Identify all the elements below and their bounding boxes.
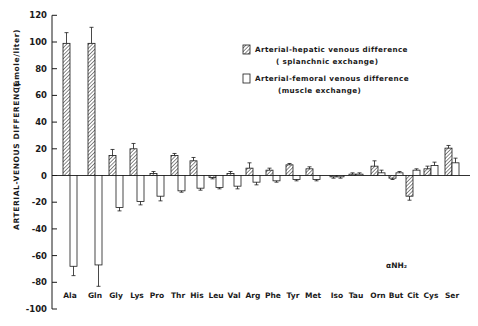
category-label: Arg bbox=[246, 291, 261, 300]
y-tick-label: 80 bbox=[35, 64, 47, 74]
y-axis-title: ARTERIAL-VENOUS DIFFERENCE (µmole/liter) bbox=[12, 29, 21, 230]
muscle-bar bbox=[137, 176, 144, 202]
category-label: Phe bbox=[265, 291, 281, 300]
muscle-bar bbox=[197, 176, 204, 189]
y-tick-label: -100 bbox=[26, 304, 47, 314]
hepatic-bar bbox=[371, 166, 378, 175]
hepatic-bar bbox=[389, 176, 396, 179]
category-label: But bbox=[389, 291, 404, 300]
muscle-bar bbox=[396, 173, 403, 176]
category-label: Thr bbox=[171, 291, 185, 300]
y-axis-label: ARTERIAL-VENOUS DIFFERENCE bbox=[12, 81, 21, 230]
category-label: Orn bbox=[370, 291, 385, 300]
category-label: Ala bbox=[63, 291, 76, 300]
category-label: Leu bbox=[208, 291, 223, 300]
category-label: Tyr bbox=[287, 291, 300, 300]
hepatic-bar bbox=[150, 173, 157, 175]
hepatic-bar bbox=[424, 169, 431, 176]
hepatic-bar bbox=[349, 174, 356, 175]
legend-item-femoral-sub: (muscle exchange) bbox=[278, 86, 361, 95]
alpha-nh2-annotation: αNH₂ bbox=[386, 261, 407, 270]
category-label: His bbox=[190, 291, 204, 300]
muscle-bar bbox=[216, 176, 223, 188]
hepatic-bar bbox=[246, 168, 253, 175]
legend-open-swatch bbox=[243, 74, 250, 83]
category-label: Iso bbox=[331, 291, 343, 300]
category-label: Pro bbox=[150, 291, 164, 300]
legend-hatched-swatch bbox=[243, 45, 250, 54]
hepatic-bar bbox=[109, 155, 116, 175]
y-axis-units: (µmole/liter) bbox=[12, 29, 21, 90]
category-label: Met bbox=[305, 291, 322, 300]
muscle-bar bbox=[452, 163, 459, 176]
category-label: Ser bbox=[445, 291, 459, 300]
legend-item-hepatic-sub: ( splanchnic exchange) bbox=[276, 57, 378, 66]
muscle-bar bbox=[337, 176, 344, 177]
category-label: Lys bbox=[130, 291, 144, 300]
y-tick-label: 100 bbox=[29, 37, 47, 47]
muscle-bar bbox=[234, 176, 241, 187]
category-label: Gln bbox=[88, 291, 102, 300]
hepatic-bar bbox=[130, 149, 137, 176]
y-tick-label: -20 bbox=[32, 197, 47, 207]
hepatic-bar bbox=[330, 176, 337, 177]
muscle-bar bbox=[431, 165, 438, 175]
hepatic-bar bbox=[171, 155, 178, 175]
category-label: Cys bbox=[424, 291, 439, 300]
hepatic-bar bbox=[209, 176, 216, 178]
muscle-bar bbox=[70, 176, 77, 267]
category-label: Tau bbox=[349, 291, 364, 300]
y-tick-label: -80 bbox=[32, 277, 47, 287]
muscle-bar bbox=[273, 176, 280, 181]
y-tick-label: 120 bbox=[29, 10, 47, 20]
legend-item-femoral: Arterial-femoral venous difference bbox=[255, 74, 409, 83]
category-labels: AlaGlnGlyLysProThrHisLeuValArgPheTyrMetI… bbox=[63, 291, 459, 300]
y-tick-label: 20 bbox=[35, 144, 47, 154]
y-tick-label: -60 bbox=[32, 251, 47, 261]
muscle-bar bbox=[293, 176, 300, 180]
hepatic-bar bbox=[306, 169, 313, 176]
y-tick-label: 0 bbox=[41, 171, 47, 181]
hepatic-bar bbox=[286, 165, 293, 176]
muscle-bar bbox=[178, 176, 185, 191]
hepatic-bar bbox=[266, 170, 273, 175]
category-label: Cit bbox=[407, 291, 419, 300]
muscle-bar bbox=[413, 170, 420, 175]
y-tick-label: -40 bbox=[32, 224, 47, 234]
muscle-bar bbox=[116, 176, 123, 208]
muscle-bar bbox=[95, 176, 102, 265]
y-tick-label: 60 bbox=[35, 90, 47, 100]
y-tick-label: 40 bbox=[35, 117, 47, 127]
category-label: Val bbox=[227, 291, 240, 300]
muscle-bar bbox=[356, 174, 363, 175]
hepatic-bar bbox=[445, 148, 452, 175]
amino-acid-exchange-chart: 120100806040200-20-40-60-80-100 AlaGlnGl… bbox=[0, 0, 478, 326]
muscle-bar bbox=[157, 176, 164, 197]
hepatic-bar bbox=[227, 173, 234, 175]
muscle-bar bbox=[253, 176, 260, 183]
legend: Arterial-hepatic venous difference ( spl… bbox=[243, 45, 409, 95]
bar-series bbox=[63, 27, 459, 286]
hepatic-bar bbox=[406, 176, 413, 197]
muscle-bar bbox=[378, 173, 385, 176]
muscle-bar bbox=[313, 176, 320, 180]
hepatic-bar bbox=[63, 43, 70, 175]
hepatic-bar bbox=[190, 161, 197, 176]
category-label: Gly bbox=[109, 291, 123, 300]
hepatic-bar bbox=[88, 43, 95, 175]
legend-item-hepatic: Arterial-hepatic venous difference bbox=[255, 45, 408, 54]
